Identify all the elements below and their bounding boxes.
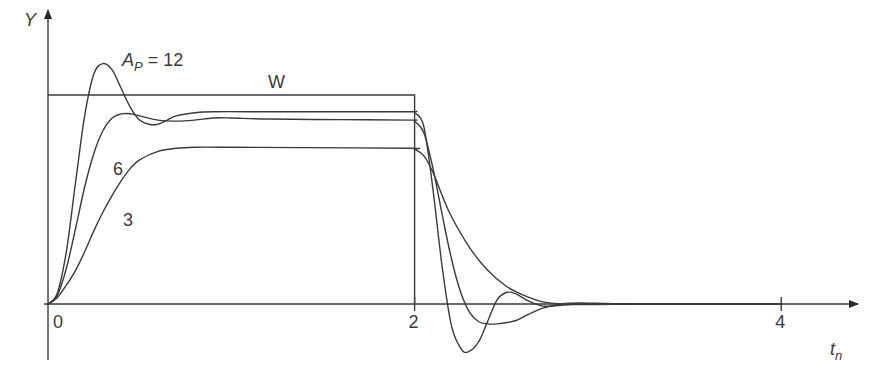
curve-label-ap-12: AP = 12 — [121, 50, 183, 74]
x-tick-label: 4 — [775, 312, 785, 332]
x-axis-label-sub: n — [835, 348, 842, 363]
x-ticks: 024 — [53, 297, 785, 332]
curve-label-ap-3: 3 — [123, 210, 133, 230]
setpoint-w-label: W — [268, 72, 285, 92]
setpoint-w-line — [48, 95, 415, 304]
x-axis-label: tn — [830, 339, 842, 363]
y-axis-label: Y — [24, 10, 38, 30]
step-response-chart: Y tn 024 W AP = 12 6 3 — [0, 0, 871, 371]
x-tick-label: 0 — [53, 312, 63, 332]
x-tick-label: 2 — [409, 312, 419, 332]
curve-label-ap-6: 6 — [113, 159, 123, 179]
